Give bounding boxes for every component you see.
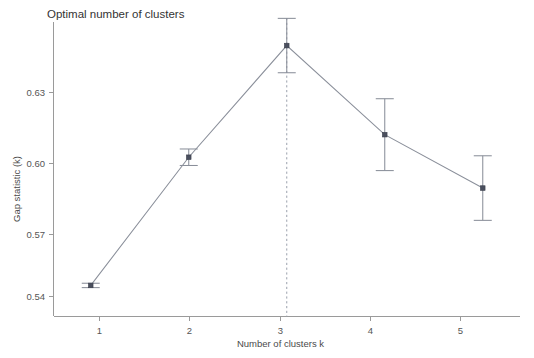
y-tick-label-1: 0.57 bbox=[27, 229, 46, 240]
x-tick-label-4: 5 bbox=[458, 325, 463, 336]
x-tick-label-0: 1 bbox=[97, 325, 102, 336]
y-tick-label-0: 0.54 bbox=[27, 291, 46, 302]
data-point-marker bbox=[480, 186, 485, 191]
gap-statistic-chart: Optimal number of clusters 0.54 0.57 0.6… bbox=[0, 0, 534, 358]
x-tick-label-2: 3 bbox=[278, 325, 283, 336]
y-tick-label-3: 0.63 bbox=[27, 87, 46, 98]
y-axis-title: Gap statistic (k) bbox=[11, 156, 22, 222]
chart-title: Optimal number of clusters bbox=[47, 8, 185, 20]
x-tick-label-1: 2 bbox=[187, 325, 192, 336]
x-axis-title: Number of clusters k bbox=[237, 338, 324, 349]
y-tick-label-2: 0.60 bbox=[27, 158, 46, 169]
data-point-markers bbox=[88, 43, 485, 287]
chart-container: Optimal number of clusters 0.54 0.57 0.6… bbox=[0, 0, 534, 358]
data-point-marker bbox=[382, 132, 387, 137]
data-point-marker bbox=[284, 43, 289, 48]
x-tick-label-3: 4 bbox=[368, 325, 373, 336]
data-point-marker bbox=[88, 283, 93, 288]
data-point-marker bbox=[186, 155, 191, 160]
